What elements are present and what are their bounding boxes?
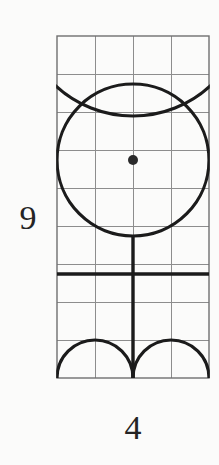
upper-arc <box>19 2 219 116</box>
figure-strokes <box>19 2 219 378</box>
center-dot <box>128 155 138 165</box>
bottom-dimension-label: 4 <box>103 406 163 450</box>
left-dimension-label: 9 <box>6 196 50 240</box>
